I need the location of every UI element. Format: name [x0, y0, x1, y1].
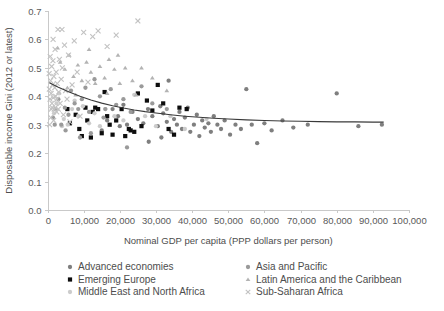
data-point	[92, 77, 96, 81]
data-point	[81, 104, 85, 108]
x-tick-label: 10,000	[70, 215, 99, 226]
data-point	[123, 134, 127, 138]
data-point	[172, 117, 176, 121]
data-point	[125, 123, 129, 127]
data-point	[269, 128, 273, 132]
legend-marker-icon	[246, 277, 251, 281]
data-point	[112, 67, 117, 71]
data-point	[121, 103, 125, 107]
data-point	[139, 124, 143, 128]
data-point	[139, 84, 143, 88]
axis-lines	[48, 11, 410, 211]
data-point	[66, 113, 70, 117]
data-point	[200, 118, 204, 122]
data-point	[154, 124, 158, 128]
data-point	[250, 123, 254, 127]
data-point	[75, 70, 80, 75]
data-point	[60, 65, 65, 70]
data-point	[130, 79, 135, 83]
y-tick-label: 0.6	[28, 34, 41, 45]
data-point	[102, 76, 107, 80]
data-point	[78, 135, 82, 139]
data-point	[81, 30, 86, 35]
y-tick-label: 0.2	[28, 148, 41, 159]
scatter-chart-figure: 010,00020,00030,00040,00050,00060,00070,…	[0, 0, 444, 311]
data-point	[62, 43, 67, 48]
x-tick-label: 20,000	[106, 215, 135, 226]
data-point	[107, 57, 112, 61]
data-point	[244, 87, 248, 91]
data-point	[112, 114, 116, 118]
legend-item[interactable]: Middle East and North Africa	[68, 286, 205, 297]
data-point	[335, 91, 339, 95]
data-point	[172, 133, 176, 137]
y-axis-title: Disposable income Gini (2012 or latest)	[3, 27, 14, 193]
legend-label: Emerging Europe	[78, 274, 156, 285]
data-point	[96, 28, 101, 33]
data-point	[87, 121, 91, 125]
data-point	[183, 127, 187, 131]
data-point	[165, 107, 169, 111]
data-point	[291, 125, 295, 129]
legend-item[interactable]: Sub-Saharan Africa	[246, 286, 343, 297]
data-point	[75, 63, 80, 67]
x-tick-label: 40,000	[178, 215, 207, 226]
data-point	[76, 107, 80, 111]
data-point	[86, 80, 91, 85]
chart-frame: 010,00020,00030,00040,00050,00060,00070,…	[0, 0, 444, 311]
data-point	[101, 115, 105, 119]
data-point	[195, 113, 199, 117]
data-point	[100, 131, 104, 135]
data-point	[72, 101, 76, 105]
data-point	[165, 120, 169, 124]
y-tick-label: 0.7	[28, 6, 41, 17]
data-point	[135, 19, 140, 24]
data-point	[63, 106, 67, 110]
data-point	[175, 123, 179, 127]
legend-label: Middle East and North Africa	[78, 286, 205, 297]
data-point	[164, 88, 169, 92]
data-point	[167, 127, 171, 131]
data-point	[96, 107, 100, 111]
y-tick-label: 0.4	[28, 91, 41, 102]
legend-item[interactable]: Advanced economies	[68, 261, 174, 272]
data-point	[103, 107, 107, 111]
data-point	[84, 60, 89, 64]
legend-marker-icon	[68, 290, 72, 294]
data-point	[59, 77, 64, 82]
data-point	[215, 123, 219, 127]
y-tick-label: 0.0	[28, 205, 41, 216]
data-point	[92, 111, 96, 115]
data-point	[356, 124, 360, 128]
data-point	[89, 131, 93, 135]
data-point	[50, 58, 55, 63]
data-point	[121, 97, 125, 101]
data-point	[121, 118, 125, 122]
data-point	[145, 98, 149, 102]
data-point	[87, 47, 92, 51]
data-point	[380, 123, 384, 127]
legend-item[interactable]: Asia and Pacific	[246, 261, 327, 272]
data-points-layer	[47, 19, 384, 150]
data-point	[177, 110, 181, 114]
chart-legend: Advanced economiesEmerging EuropeMiddle …	[68, 261, 402, 297]
data-point	[72, 38, 77, 43]
legend-label: Advanced economies	[78, 261, 174, 272]
data-point	[110, 133, 114, 137]
data-point	[65, 97, 70, 102]
legend-item[interactable]: Emerging Europe	[68, 274, 156, 285]
data-point	[61, 112, 66, 117]
data-point	[203, 125, 207, 129]
data-point	[139, 66, 144, 70]
data-point	[83, 86, 87, 90]
x-axis-ticks: 010,00020,00030,00040,00050,00060,00070,…	[46, 210, 427, 226]
data-point	[177, 106, 181, 110]
data-point	[219, 127, 223, 131]
data-point	[159, 135, 163, 139]
legend-item[interactable]: Latin America and the Caribbean	[246, 274, 402, 285]
x-tick-label: 50,000	[214, 215, 243, 226]
data-point	[188, 130, 192, 134]
x-tick-label: 70,000	[287, 215, 316, 226]
data-point	[70, 107, 74, 111]
legend-marker-icon	[68, 277, 72, 281]
